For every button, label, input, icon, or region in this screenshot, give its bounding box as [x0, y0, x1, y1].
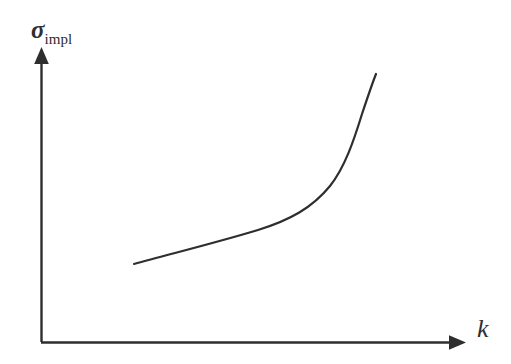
plot-area: [0, 0, 511, 364]
x-axis-arrowhead-icon: [449, 335, 466, 350]
y-axis-label: σimpl: [31, 17, 72, 47]
series-curve-implied-volatility: [134, 74, 376, 264]
y-axis-arrowhead-icon: [34, 47, 49, 64]
y-axis-label-subscript: impl: [44, 31, 72, 47]
x-axis-label: k: [477, 316, 489, 342]
y-axis-label-symbol: σ: [31, 16, 44, 43]
figure-canvas: σimpl k: [0, 0, 511, 364]
